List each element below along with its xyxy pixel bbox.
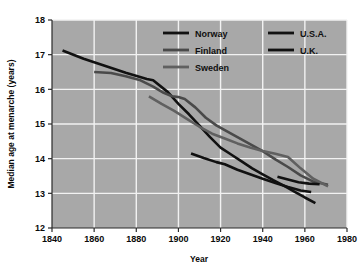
menarche-line-chart: 12131415161718 1840186018801900192019401… [0, 0, 362, 268]
y-tick-label: 17 [35, 50, 45, 60]
legend-label-uk: U.K. [300, 46, 318, 56]
y-tick-label: 18 [35, 15, 45, 25]
chart-container: 12131415161718 1840186018801900192019401… [0, 0, 362, 268]
legend-label-sweden: Sweden [195, 63, 229, 73]
x-tick-label: 1840 [42, 234, 62, 244]
x-axis-title: Year [190, 254, 209, 264]
x-tick-label: 1860 [84, 234, 104, 244]
x-tick-label: 1920 [211, 234, 231, 244]
legend-label-usa: U.S.A. [300, 29, 327, 39]
legend-label-norway: Norway [195, 29, 228, 39]
x-tick-label: 1980 [337, 234, 357, 244]
y-tick-label: 15 [35, 119, 45, 129]
legend-label-finland: Finland [195, 46, 227, 56]
y-axis-title: Median age at menarche (years) [6, 59, 16, 188]
x-tick-label: 1880 [126, 234, 146, 244]
x-tick-label: 1900 [168, 234, 188, 244]
x-tick-label: 1940 [253, 234, 273, 244]
y-tick-label: 12 [35, 223, 45, 233]
x-tick-label: 1960 [295, 234, 315, 244]
y-tick-label: 16 [35, 85, 45, 95]
y-tick-label: 13 [35, 189, 45, 199]
y-tick-label: 14 [35, 154, 45, 164]
